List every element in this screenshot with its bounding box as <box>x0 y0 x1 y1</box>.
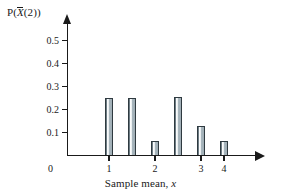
x-tick-label: 4 <box>214 164 234 174</box>
y-tick-label: 0.2 <box>31 105 59 115</box>
y-tick-label: 0.4 <box>31 59 59 69</box>
x-tick-mark <box>223 155 224 161</box>
bar-2 <box>151 141 159 155</box>
y-tick-label: 0.3 <box>31 82 59 92</box>
y-axis-label-variable: X <box>17 6 24 19</box>
x-axis-label-variable: x <box>171 177 176 189</box>
origin-label: 0 <box>48 164 53 174</box>
bar-4 <box>220 141 228 155</box>
y-axis-label: P(X(2)) <box>7 6 41 19</box>
x-axis-arrow-icon <box>255 151 265 161</box>
x-axis-label: Sample mean, x <box>0 177 281 189</box>
x-tick-mark <box>200 155 201 161</box>
x-axis-label-prefix: Sample mean, <box>105 177 171 189</box>
y-axis-arrow-icon <box>63 14 71 24</box>
y-axis-label-prefix: P( <box>7 6 17 18</box>
x-tick-mark <box>108 155 109 161</box>
y-tick-mark <box>62 40 68 41</box>
y-axis-label-suffix: (2)) <box>24 6 41 18</box>
x-tick-mark <box>154 155 155 161</box>
y-tick-mark <box>62 86 68 87</box>
bar-1-5 <box>128 98 136 156</box>
x-tick-label: 1 <box>99 164 119 174</box>
bar-2-5 <box>174 97 182 155</box>
x-tick-label: 3 <box>191 164 211 174</box>
probability-distribution-chart: P(X(2)) 0.5 0.4 0.3 0.2 0.1 0 1 2 3 4 Sa… <box>0 0 281 194</box>
x-axis-line <box>67 155 257 156</box>
bar-3 <box>197 126 205 155</box>
y-tick-mark <box>62 63 68 64</box>
y-tick-label: 0.1 <box>31 128 59 138</box>
bar-1 <box>105 98 113 156</box>
y-tick-mark <box>62 109 68 110</box>
y-tick-label: 0.5 <box>31 36 59 46</box>
y-tick-mark <box>62 132 68 133</box>
y-axis-line <box>67 22 68 156</box>
x-tick-label: 2 <box>145 164 165 174</box>
